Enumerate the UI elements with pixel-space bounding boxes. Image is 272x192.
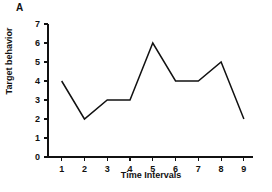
y-tick-label: 6 bbox=[26, 38, 40, 48]
y-tick-label: 2 bbox=[26, 114, 40, 124]
y-tick-label: 1 bbox=[26, 133, 40, 143]
x-tick-label: 3 bbox=[100, 164, 114, 174]
x-tick-label: 7 bbox=[191, 164, 205, 174]
data-series-target-behavior bbox=[62, 43, 244, 119]
x-tick-label: 8 bbox=[214, 164, 228, 174]
x-tick-label: 1 bbox=[55, 164, 69, 174]
panel-label: A bbox=[16, 2, 23, 14]
y-tick-label: 7 bbox=[26, 19, 40, 29]
chart-axes bbox=[44, 24, 253, 161]
x-tick-label: 6 bbox=[169, 164, 183, 174]
figure-panel-a: A Target behavior Time Intervals 0123456… bbox=[0, 0, 272, 192]
y-tick-label: 5 bbox=[26, 57, 40, 67]
x-tick-label: 2 bbox=[77, 164, 91, 174]
x-tick-label: 9 bbox=[237, 164, 251, 174]
y-tick-label: 0 bbox=[26, 152, 40, 162]
x-tick-label: 5 bbox=[146, 164, 160, 174]
x-tick-label: 4 bbox=[123, 164, 137, 174]
y-axis-title: Target behavior bbox=[4, 21, 14, 101]
y-tick-label: 3 bbox=[26, 95, 40, 105]
y-tick-label: 4 bbox=[26, 76, 40, 86]
